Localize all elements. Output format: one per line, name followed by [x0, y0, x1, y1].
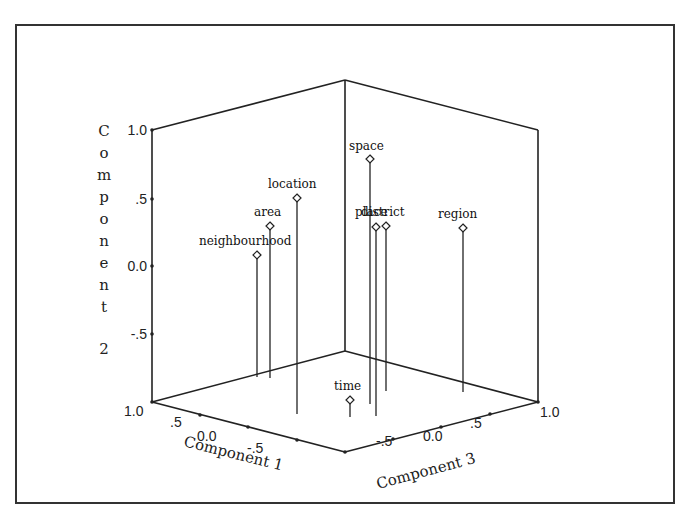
- data-points: neighbourhoodarealocationspaceplacedistr…: [199, 139, 478, 404]
- point-marker-diamond: [266, 222, 274, 230]
- z-tick-label: 1.0: [540, 404, 560, 420]
- z-tick-label: -.5: [376, 433, 393, 449]
- point-label: time: [334, 379, 361, 393]
- y-axis-title-char: n: [99, 232, 109, 250]
- y-axis-title-char: o: [99, 144, 108, 162]
- y-axis-title-char: e: [100, 254, 109, 272]
- x-tick-label: .5: [170, 414, 182, 430]
- y-axis-title-char: C: [98, 122, 109, 140]
- 3d-scatter-chart: 1.0.50.0-.51.0.50.0-.5-.50.0.51.0 neighb…: [0, 0, 684, 519]
- y-tick-label: .5: [135, 191, 147, 207]
- z-tick-label: 0.0: [423, 428, 443, 444]
- z-tick-label: .5: [470, 415, 482, 431]
- tick-labels: 1.0.50.0-.51.0.50.0-.5-.50.0.51.0: [124, 122, 560, 456]
- y-tick-label: -.5: [131, 326, 148, 342]
- top-left-edge: [152, 80, 345, 130]
- y-tick: [150, 128, 154, 132]
- y-tick: [150, 197, 154, 201]
- z-tick: [488, 412, 492, 416]
- x-axis-title: Component 1: [182, 432, 285, 474]
- x-tick: [246, 425, 250, 429]
- y-axis-title: Component2: [97, 122, 111, 358]
- point-label: location: [268, 177, 317, 191]
- y-axis-title-char: t: [101, 298, 107, 316]
- y-axis-title-char: 2: [99, 340, 109, 358]
- point-marker-diamond: [459, 224, 467, 232]
- point-label: region: [438, 207, 478, 221]
- y-tick: [150, 332, 154, 336]
- x-tick: [295, 438, 299, 442]
- x-tick: [198, 413, 202, 417]
- y-tick: [150, 264, 154, 268]
- point-marker-diamond: [253, 251, 261, 259]
- y-axis-title-char: o: [99, 210, 108, 228]
- y-axis-title-char: p: [99, 188, 109, 206]
- point-marker-diamond: [382, 222, 390, 230]
- point-label: space: [349, 139, 384, 153]
- x-tick-label: 1.0: [124, 403, 144, 419]
- point-marker-diamond: [366, 155, 374, 163]
- y-tick-label: 1.0: [128, 122, 148, 138]
- y-tick-label: 0.0: [128, 258, 148, 274]
- axis-box: [152, 80, 538, 452]
- z-axis-title: Component 3: [374, 449, 477, 493]
- point-label: neighbourhood: [199, 234, 292, 248]
- point-label: district: [361, 205, 405, 219]
- floor-back-right-edge: [345, 351, 538, 402]
- y-axis-title-char: n: [99, 276, 109, 294]
- floor-back-left-edge: [152, 351, 345, 402]
- point-marker-diamond: [372, 223, 380, 231]
- point-label: area: [254, 205, 281, 219]
- point-marker-diamond: [346, 396, 354, 404]
- y-axis-title-char: m: [97, 166, 111, 184]
- top-right-edge: [345, 80, 538, 130]
- point-marker-diamond: [293, 194, 301, 202]
- x-tick: [150, 400, 154, 404]
